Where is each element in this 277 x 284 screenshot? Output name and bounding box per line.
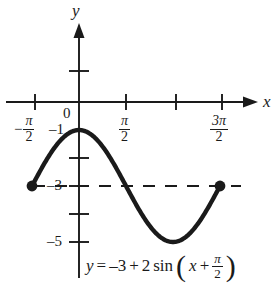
origin-label: 0 <box>63 106 71 121</box>
pi-over-2-numerator: π <box>119 114 130 130</box>
three-pi-over-2-numerator: 3π <box>210 114 228 130</box>
equation-constant: –3 <box>109 256 126 276</box>
neg-pi-over-2-sign: − <box>14 122 22 137</box>
graph-figure: y x 0 − π 2 π 2 3π 2 –1 –3 –5 y = –3 <box>0 0 277 284</box>
equation-arg-variable: x <box>189 256 197 276</box>
x-tick-label-three-pi-over-2: 3π 2 <box>210 114 228 144</box>
equation-arg-denominator: 2 <box>212 267 223 281</box>
equation-open-paren: ( <box>176 254 186 277</box>
y-axis-label: y <box>72 2 80 19</box>
equation-plus: + <box>129 256 139 276</box>
x-axis-label: x <box>263 93 271 110</box>
three-pi-over-2-denominator: 2 <box>210 130 228 145</box>
neg-pi-over-2-denominator: 2 <box>23 130 34 145</box>
equation-arg-numerator: π <box>212 252 223 267</box>
equation-equals: = <box>97 256 107 276</box>
pi-over-2-denominator: 2 <box>119 130 130 145</box>
left-endpoint-dot <box>27 181 38 192</box>
y-tick-label-negative-three: –3 <box>47 178 62 193</box>
y-tick-label-negative-five: –5 <box>47 234 62 249</box>
x-axis-arrowhead <box>243 97 258 108</box>
equation-arg-plus: + <box>200 256 210 276</box>
right-endpoint-dot <box>215 181 226 192</box>
equation-amplitude: 2 <box>142 256 151 276</box>
coordinate-plane <box>0 0 277 284</box>
x-tick-label-neg-pi-over-2: − π 2 <box>14 114 34 144</box>
x-tick-label-pi-over-2: π 2 <box>119 114 130 144</box>
neg-pi-over-2-numerator: π <box>23 114 34 130</box>
equation-caption: y = –3 + 2 sin ( x + π 2 ) <box>86 252 236 280</box>
y-tick-label-negative-one: –1 <box>49 122 64 137</box>
equation-arg-fraction: π 2 <box>212 252 223 280</box>
equation-function: sin <box>153 256 173 276</box>
equation-lhs: y <box>86 256 94 276</box>
equation-close-paren: ) <box>226 254 236 277</box>
y-axis-arrowhead <box>74 23 85 38</box>
